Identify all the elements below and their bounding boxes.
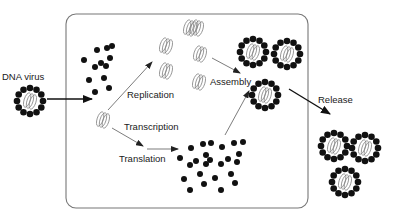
label-assembly: Assembly bbox=[210, 76, 251, 87]
released-virions bbox=[318, 130, 382, 199]
label-translation: Translation bbox=[119, 153, 166, 164]
assembly-arrow-from-proteins bbox=[225, 91, 249, 135]
label-release: Release bbox=[318, 94, 353, 105]
entering-virion bbox=[14, 85, 47, 118]
host-cell-boundary bbox=[66, 14, 308, 208]
assembly-arrow-from-genomes bbox=[212, 58, 240, 73]
label-transcription: Transcription bbox=[124, 121, 179, 132]
label-dna-virus: DNA virus bbox=[2, 71, 44, 82]
replication-arrow bbox=[108, 62, 152, 110]
label-replication: Replication bbox=[127, 89, 174, 100]
replicated-genomes bbox=[158, 19, 208, 91]
viral-dna-genome bbox=[95, 111, 111, 129]
assembled-virions bbox=[237, 36, 304, 112]
uncoated-capsid-proteins bbox=[81, 43, 115, 95]
translated-proteins bbox=[177, 139, 246, 193]
virus-replication-diagram: DNA virus Replication Transcription Tran… bbox=[0, 0, 395, 216]
